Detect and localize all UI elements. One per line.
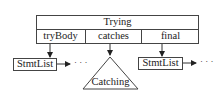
field-catches: catches <box>86 31 141 42</box>
continuation-dots-left: · · · <box>74 58 88 67</box>
continuation-dots-right: · · · <box>200 57 214 66</box>
stmtlist-trybody-label: StmtList <box>13 59 57 70</box>
field-final: final <box>142 31 199 42</box>
catching-label: Catching <box>88 77 133 88</box>
field-trybody: tryBody <box>36 31 85 42</box>
stmtlist-final-label: StmtList <box>138 58 183 69</box>
trying-title: Trying <box>36 17 199 28</box>
